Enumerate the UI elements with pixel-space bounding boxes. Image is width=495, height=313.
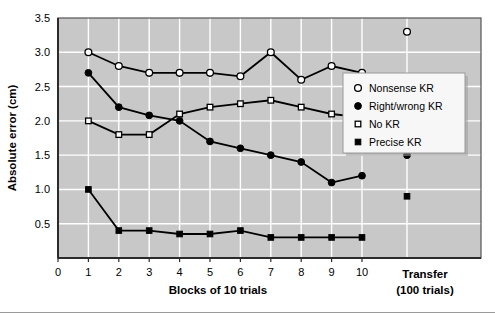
transfer-label-line1: Transfer [402,268,448,280]
legend-marker-filled-circle-marker [355,103,362,110]
data-point-filled-square-marker [207,231,213,237]
legend-marker-open-circle-marker [355,85,362,92]
data-point-filled-square-marker [146,228,152,234]
data-point-filled-square-marker [86,187,92,193]
legend-marker-open-square-marker [355,121,361,127]
absolute-error-line-chart: 0.51.01.52.02.53.03.5Absolute error (cm)… [0,0,495,313]
data-point-filled-square-marker [329,235,335,241]
data-point-filled-square-marker [116,228,122,234]
data-point-open-circle-marker [237,73,244,80]
data-point-open-circle-marker [328,63,335,70]
x-tick-label: 5 [207,266,213,278]
data-point-filled-square-marker [359,235,365,241]
data-point-filled-circle-marker [146,112,153,119]
data-point-filled-circle-marker [298,159,305,166]
data-point-filled-square-marker [268,235,274,241]
transfer-label-line2: (100 trials) [396,284,454,296]
x-tick-label: 3 [146,266,152,278]
data-point-filled-circle-marker [359,172,366,179]
data-point-open-square-marker [238,101,244,107]
data-point-open-square-marker [116,132,122,138]
data-point-open-square-marker [146,132,152,138]
y-tick-label: 2.5 [35,81,50,93]
data-point-filled-square-marker [238,228,244,234]
data-point-open-square-marker [268,97,274,103]
x-tick-label: 0 [55,266,61,278]
x-axis-title: Blocks of 10 trials [169,284,267,296]
data-point-open-circle-marker [115,63,122,70]
y-tick-label: 3.0 [35,46,50,58]
y-tick-label: 1.5 [35,149,50,161]
legend-marker-filled-square-marker [355,139,361,145]
data-point-filled-circle-marker [115,104,122,111]
data-point-open-square-marker [177,111,183,117]
y-tick-label: 0.5 [35,218,50,230]
x-tick-label: 2 [116,266,122,278]
data-point-open-circle-marker [298,76,305,83]
legend: Nonsense KRRight/wrong KRNo KRPrecise KR [343,73,468,156]
data-point-open-square-marker [329,111,335,117]
legend-label: Nonsense KR [369,82,434,94]
data-point-filled-square-marker [298,235,304,241]
data-point-open-square-marker [207,104,213,110]
y-axis-title: Absolute error (cm) [6,84,18,191]
x-tick-label: 10 [356,266,368,278]
y-tick-label: 3.5 [35,12,50,24]
data-point-filled-circle-marker [207,138,214,145]
x-tick-label: 9 [329,266,335,278]
legend-label: Precise KR [369,136,422,148]
data-point-filled-circle-marker [237,145,244,152]
data-point-open-circle-marker [146,69,153,76]
data-point-open-square-marker [298,104,304,110]
data-point-open-circle-marker [176,69,183,76]
y-tick-label: 2.0 [35,115,50,127]
y-tick-label: 1.0 [35,183,50,195]
data-point-open-circle-marker [267,49,274,56]
data-point-open-circle-marker [85,49,92,56]
x-tick-label: 7 [268,266,274,278]
legend-label: Right/wrong KR [369,100,443,112]
transfer-point-open-circle-marker [404,28,411,35]
data-point-filled-circle-marker [328,179,335,186]
data-point-filled-circle-marker [176,117,183,124]
legend-label: No KR [369,118,400,130]
x-tick-label: 4 [177,266,183,278]
data-point-filled-square-marker [177,231,183,237]
x-tick-label: 6 [237,266,243,278]
data-point-open-square-marker [86,118,92,124]
transfer-point-filled-square-marker [404,193,410,199]
x-tick-label: 8 [298,266,304,278]
data-point-filled-circle-marker [267,152,274,159]
data-point-open-circle-marker [207,69,214,76]
data-point-filled-circle-marker [85,69,92,76]
figure-container: 0.51.01.52.02.53.03.5Absolute error (cm)… [0,0,495,313]
x-tick-label: 1 [85,266,91,278]
